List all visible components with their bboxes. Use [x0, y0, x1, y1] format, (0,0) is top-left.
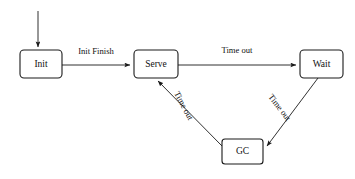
edge-init-serve-label: Init Finish — [78, 46, 114, 56]
node-serve[interactable]: Serve — [134, 50, 178, 78]
edge-serve-wait-label: Time out — [222, 45, 254, 55]
edge-init-serve: Init Finish — [62, 46, 130, 65]
node-gc-label: GC — [236, 146, 249, 156]
node-serve-label: Serve — [145, 59, 167, 69]
node-gc[interactable]: GC — [222, 139, 263, 164]
node-init-label: Init — [34, 59, 48, 69]
state-diagram: Init Finish Time out Time out Time out I… — [0, 0, 355, 179]
edge-wait-gc: Time out — [267, 78, 318, 146]
edge-serve-wait: Time out — [178, 45, 296, 65]
edge-wait-gc-label: Time out — [267, 92, 294, 123]
node-wait-label: Wait — [313, 59, 331, 69]
edge-gc-serve: Time out — [158, 81, 222, 146]
node-init[interactable]: Init — [20, 50, 62, 78]
state-diagram-canvas: Init Finish Time out Time out Time out I… — [0, 0, 355, 179]
edge-wait-gc-line — [267, 78, 318, 146]
edge-gc-serve-label: Time out — [172, 89, 196, 122]
node-wait[interactable]: Wait — [300, 50, 343, 78]
